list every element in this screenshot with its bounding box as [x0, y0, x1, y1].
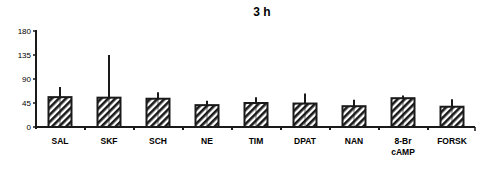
- x-category-label: FORSK: [437, 136, 468, 146]
- y-tick-label: 135: [18, 51, 32, 60]
- x-category-label: cAMP: [391, 147, 415, 157]
- bar-tim: [245, 97, 268, 127]
- bar-sal: [49, 87, 72, 127]
- x-category-label: NAN: [345, 136, 363, 146]
- x-category-label: DPAT: [294, 136, 317, 146]
- bar-ne: [196, 101, 219, 127]
- y-tick-label: 180: [18, 27, 32, 36]
- bar-sch: [147, 92, 170, 127]
- bar-dpat: [294, 93, 317, 127]
- x-category-label: 8-Br: [394, 136, 412, 146]
- y-tick-label: 90: [22, 75, 31, 84]
- x-category-label: NE: [201, 136, 213, 146]
- y-axis: 04590135180: [18, 27, 36, 132]
- bar-chart: 3 h 04590135180 SALSKFSCHNETIMDPATNAN8-B…: [0, 0, 500, 169]
- bar-nan: [343, 100, 366, 127]
- bar-8-br-camp: [392, 96, 415, 127]
- chart-title: 3 h: [253, 5, 270, 19]
- bars: [49, 55, 464, 127]
- x-axis: SALSKFSCHNETIMDPATNAN8-BrcAMPFORSK: [36, 127, 475, 157]
- x-category-label: SKF: [101, 136, 118, 146]
- bar-forsk: [441, 99, 464, 127]
- y-tick-label: 45: [22, 99, 31, 108]
- x-category-label: SAL: [52, 136, 69, 146]
- bar-skf: [98, 55, 121, 127]
- x-category-label: TIM: [249, 136, 264, 146]
- x-category-label: SCH: [149, 136, 167, 146]
- y-tick-label: 0: [27, 123, 32, 132]
